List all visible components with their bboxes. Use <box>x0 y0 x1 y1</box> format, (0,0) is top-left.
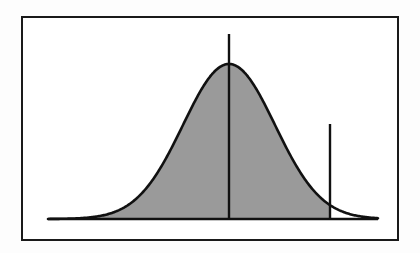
distribution-chart <box>0 0 420 253</box>
chart-content <box>48 34 378 219</box>
shaded-area-under-curve <box>48 64 330 219</box>
figure-root: Normal distribution curve with shaded re… <box>0 0 420 253</box>
